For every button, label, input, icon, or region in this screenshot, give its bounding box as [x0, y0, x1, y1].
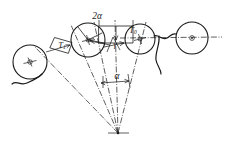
- technical-diagram-figure: T1 2α: [0, 0, 225, 146]
- sheave-far-right-center-dot: [191, 37, 193, 39]
- diagram-canvas: T1 2α: [0, 0, 225, 146]
- apex-point: [117, 132, 120, 135]
- wrap-angle-label: 2α: [92, 11, 103, 21]
